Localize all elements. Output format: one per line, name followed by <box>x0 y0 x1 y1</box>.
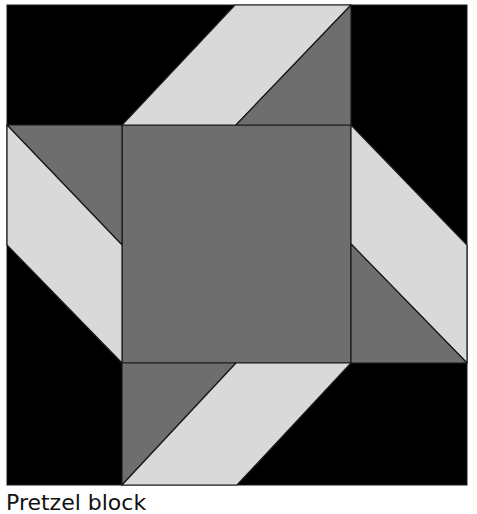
block-caption: Pretzel block <box>6 492 146 514</box>
center-square <box>122 125 351 363</box>
